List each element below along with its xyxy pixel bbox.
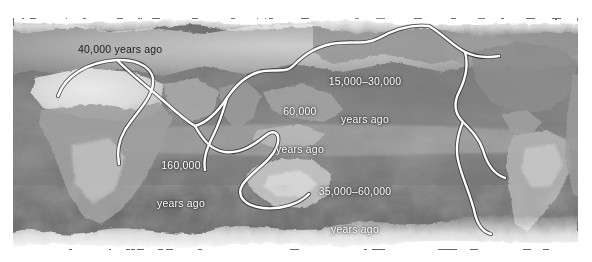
world-map-graphic: [13, 18, 578, 250]
migration-map-figure: 40,000 years ago 15,000–30,000 years ago…: [0, 0, 592, 262]
world-map-image: [13, 18, 578, 250]
